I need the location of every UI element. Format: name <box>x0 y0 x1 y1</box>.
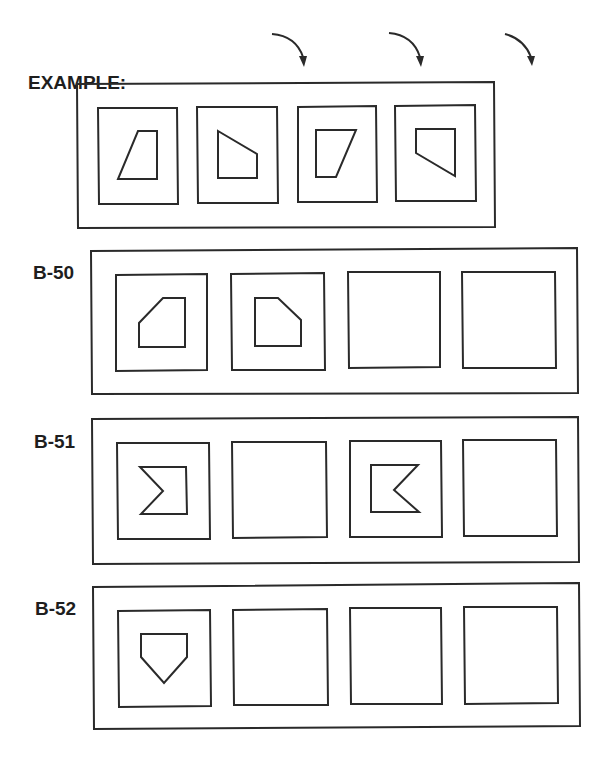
shape-notched-rectangle <box>371 465 419 512</box>
b50-panel-3-blank[interactable] <box>348 272 440 368</box>
puzzle-sheet <box>0 0 609 771</box>
rotation-arrows <box>272 33 535 67</box>
curved-arrow-icon <box>505 34 535 66</box>
b52-panel-3-blank[interactable] <box>350 608 442 704</box>
example-panel-4 <box>395 105 476 201</box>
row-frame-b52 <box>93 583 580 729</box>
b51-panel-3[interactable] <box>350 441 442 537</box>
example-panel-2 <box>197 107 278 203</box>
b50-panel-1[interactable] <box>116 274 207 371</box>
example-panel-3 <box>298 106 377 202</box>
curved-arrow-icon <box>389 33 424 67</box>
b50-panel-4-blank[interactable] <box>462 272 556 368</box>
shape-trapezoid <box>118 131 157 179</box>
b52-panel-2-blank[interactable] <box>233 609 328 705</box>
b51-panel-1[interactable] <box>117 443 210 539</box>
row-frame-b51 <box>92 417 579 564</box>
shape-pentagon <box>139 298 185 347</box>
shape-notched-rectangle <box>140 467 187 514</box>
shape-trapezoid <box>218 131 257 178</box>
shape-trapezoid <box>316 130 356 177</box>
b51-panel-2[interactable] <box>232 442 327 538</box>
b52-panel-4-blank[interactable] <box>464 607 558 704</box>
example-frame <box>77 82 495 228</box>
row-frame-b50 <box>91 248 578 394</box>
example-panel-1 <box>98 108 178 204</box>
b50-panel-2[interactable] <box>231 273 325 370</box>
shape-trapezoid <box>416 129 455 176</box>
b52-panel-1[interactable] <box>118 610 211 707</box>
b51-panel-4-blank[interactable] <box>463 440 557 536</box>
shape-pentagon <box>255 298 301 346</box>
shape-home-plate <box>141 634 187 683</box>
curved-arrow-icon <box>272 34 307 67</box>
